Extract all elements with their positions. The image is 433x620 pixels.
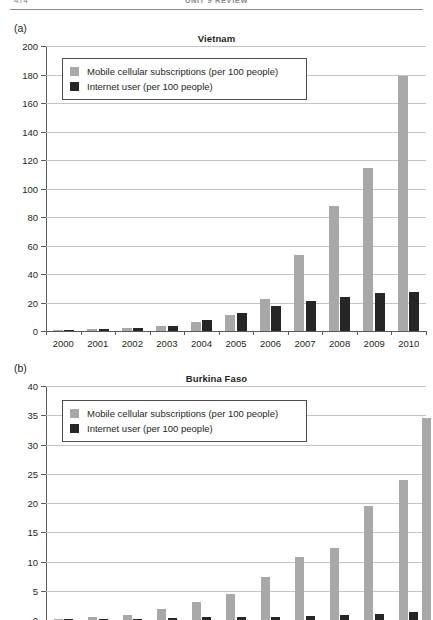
bar-mobile-2005 [225, 315, 235, 331]
legend-row-internet: Internet user (per 100 people) [70, 421, 297, 436]
y-axis-label: 20 [27, 498, 38, 509]
x-axis-label: 2003 [156, 338, 177, 349]
y-axis-label: 80 [27, 212, 38, 223]
legend-label-internet: Internet user (per 100 people) [87, 423, 213, 434]
y-axis-label: 180 [22, 69, 38, 80]
header-divider [10, 9, 423, 10]
y-axis-label: 40 [27, 381, 38, 392]
y-axis-tick [41, 160, 46, 161]
bar-internet-2001 [99, 329, 109, 331]
y-axis-label: 0 [33, 615, 38, 620]
y-axis-label: 160 [22, 98, 38, 109]
y-axis-tick [41, 532, 46, 533]
bar-mobile-2008 [329, 206, 339, 331]
y-axis-tick [41, 274, 46, 275]
x-axis-label: 2010 [398, 338, 419, 349]
bar-mobile-2009 [363, 168, 373, 331]
y-axis-tick [41, 474, 46, 475]
legend-vietnam: Mobile cellular subscriptions (per 100 p… [62, 58, 307, 100]
bar-mobile-extra [422, 418, 431, 620]
bar-mobile-2007 [295, 557, 304, 620]
legend-row-mobile: Mobile cellular subscriptions (per 100 p… [70, 64, 297, 79]
x-axis-label: 2004 [191, 338, 212, 349]
x-axis-label: 2005 [225, 338, 246, 349]
bar-mobile-2008 [330, 548, 339, 620]
bar-mobile-2005 [226, 594, 235, 620]
bar-mobile-2010 [399, 480, 408, 620]
bar-internet-2006 [271, 306, 281, 331]
x-axis-tick [219, 331, 220, 335]
y-axis-tick [41, 386, 46, 387]
bar-mobile-2003 [157, 609, 166, 620]
gridline [46, 160, 426, 161]
x-axis-tick [46, 331, 47, 335]
page-header: 474 UNIT 9 REVIEW [0, 0, 433, 11]
bar-internet-2007 [306, 616, 315, 620]
legend-swatch-internet-icon [70, 82, 79, 91]
y-axis-label: 10 [27, 556, 38, 567]
bar-mobile-2002 [123, 615, 132, 620]
bar-internet-2004 [202, 320, 212, 331]
bar-mobile-2004 [192, 602, 201, 620]
x-axis-tick [150, 331, 151, 335]
bar-mobile-2003 [156, 326, 166, 331]
y-axis-label: 140 [22, 126, 38, 137]
x-axis-tick [115, 331, 116, 335]
y-axis-tick [41, 591, 46, 592]
y-axis-label: 0 [33, 326, 38, 337]
legend-label-mobile: Mobile cellular subscriptions (per 100 p… [87, 66, 278, 77]
gridline [46, 132, 426, 133]
y-axis-label: 60 [27, 240, 38, 251]
legend-swatch-mobile-icon [70, 409, 79, 418]
legend-label-mobile: Mobile cellular subscriptions (per 100 p… [87, 408, 278, 419]
axis-baseline [46, 331, 426, 332]
bar-mobile-2001 [87, 329, 97, 331]
y-axis-tick [41, 217, 46, 218]
y-axis-label: 30 [27, 439, 38, 450]
bar-mobile-2007 [294, 255, 304, 331]
gridline [46, 445, 426, 446]
bar-mobile-2010 [398, 76, 408, 331]
bar-internet-2008 [340, 297, 350, 331]
bar-internet-2010 [409, 292, 419, 331]
bar-internet-2000 [64, 330, 74, 331]
legend-swatch-mobile-icon [70, 67, 79, 76]
x-axis-label: 2006 [260, 338, 281, 349]
x-axis-tick [253, 331, 254, 335]
bar-mobile-2006 [260, 299, 270, 331]
gridline [46, 503, 426, 504]
y-axis-tick [41, 562, 46, 563]
y-axis-tick [41, 415, 46, 416]
y-axis-tick [41, 445, 46, 446]
y-axis-label: 25 [27, 468, 38, 479]
bar-internet-2003 [168, 326, 178, 331]
bar-mobile-2009 [364, 506, 373, 620]
bar-internet-2006 [271, 617, 280, 620]
y-axis-tick [41, 246, 46, 247]
legend-row-internet: Internet user (per 100 people) [70, 79, 297, 94]
y-axis-tick [41, 75, 46, 76]
bar-internet-2005 [237, 313, 247, 331]
bar-internet-2007 [306, 301, 316, 331]
bar-mobile-2004 [191, 322, 201, 331]
x-axis-label: 2002 [122, 338, 143, 349]
running-head-title: UNIT 9 REVIEW [0, 0, 433, 5]
x-axis-label: 2008 [329, 338, 350, 349]
y-axis-label: 35 [27, 410, 38, 421]
bar-mobile-2000 [53, 330, 63, 331]
y-axis-tick [41, 303, 46, 304]
y-axis-tick [41, 103, 46, 104]
bar-internet-2008 [340, 615, 349, 620]
bar-internet-2010 [409, 612, 418, 620]
legend-label-internet: Internet user (per 100 people) [87, 81, 213, 92]
x-axis-label: 2009 [364, 338, 385, 349]
y-axis-tick [41, 132, 46, 133]
legend-row-mobile: Mobile cellular subscriptions (per 100 p… [70, 406, 297, 421]
y-axis-label: 5 [33, 585, 38, 596]
bar-mobile-2002 [122, 328, 132, 331]
y-axis-label: 40 [27, 269, 38, 280]
bar-internet-2009 [375, 293, 385, 331]
panel-title-burkina-faso: Burkina Faso [0, 373, 433, 384]
y-axis-tick [41, 503, 46, 504]
y-axis-label: 120 [22, 155, 38, 166]
